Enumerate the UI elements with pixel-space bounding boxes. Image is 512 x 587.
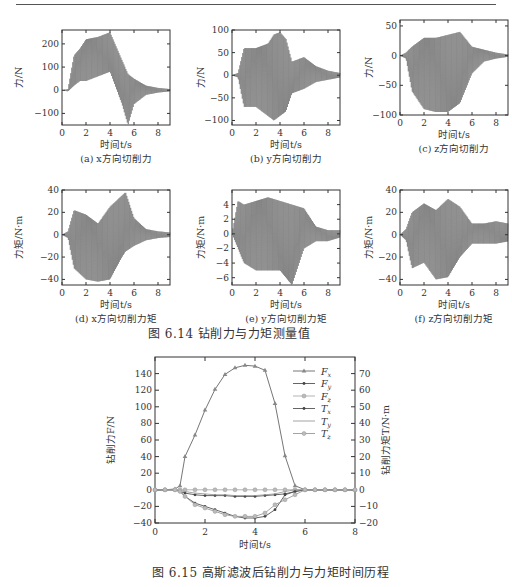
svg-text:50: 50: [386, 21, 398, 31]
svg-text:140: 140: [135, 369, 152, 379]
svg-text:0: 0: [59, 128, 65, 138]
svg-text:力/N: 力/N: [195, 67, 206, 89]
svg-text:4: 4: [445, 118, 451, 128]
svg-text:Tx: Tx: [321, 403, 331, 416]
svg-text:Fy: Fy: [320, 378, 332, 391]
legend-item-Ty: Ty: [293, 416, 331, 429]
svg-text:力矩/N·m: 力矩/N·m: [13, 216, 24, 260]
svg-text:6: 6: [469, 288, 475, 298]
svg-text:0: 0: [229, 128, 235, 138]
panel-c: 500−50−10002468时间t/s力/N(c) z方向切削力: [338, 0, 512, 160]
svg-text:时间t/s: 时间t/s: [239, 539, 271, 550]
svg-text:20: 20: [359, 452, 371, 462]
panel-a: 2001000−10002468时间t/s力/N(a) x方向切削力: [0, 10, 175, 170]
svg-text:4: 4: [252, 527, 258, 537]
svg-text:−40: −40: [378, 274, 397, 284]
svg-text:8: 8: [493, 288, 499, 298]
svg-text:时间t/s: 时间t/s: [270, 299, 302, 310]
svg-text:钻削力矩T/N·m: 钻削力矩T/N·m: [380, 405, 391, 475]
svg-text:6: 6: [302, 527, 308, 537]
svg-text:2: 2: [202, 527, 208, 537]
svg-text:30: 30: [359, 435, 371, 445]
svg-text:力/N: 力/N: [363, 57, 374, 79]
svg-text:80: 80: [141, 418, 153, 428]
legend-item-Tx: Tx: [293, 403, 331, 416]
svg-text:0: 0: [229, 288, 235, 298]
svg-text:100: 100: [212, 25, 229, 35]
svg-text:−4: −4: [216, 258, 230, 268]
panel-caption: (e) y方向切削力矩: [245, 313, 326, 324]
panel-d: 40200−20−4002468时间t/s力矩/N·m(d) x方向切削力矩: [0, 170, 175, 330]
svg-text:0: 0: [223, 70, 229, 80]
svg-text:2: 2: [421, 118, 427, 128]
svg-text:8: 8: [493, 118, 499, 128]
svg-text:20: 20: [48, 207, 60, 217]
svg-text:0: 0: [359, 485, 365, 495]
legend-item-Fx: Fx: [293, 366, 332, 379]
svg-text:时间t/s: 时间t/s: [100, 299, 132, 310]
svg-text:2: 2: [421, 288, 427, 298]
svg-text:70: 70: [359, 369, 371, 379]
panel-e: 420−2−4−602468时间t/s力矩/N·m(e) y方向切削力矩: [170, 170, 345, 330]
svg-text:8: 8: [352, 527, 358, 537]
svg-text:力矩/N·m: 力矩/N·m: [363, 216, 374, 260]
svg-text:−6: −6: [216, 273, 230, 283]
panel-caption: (a) x方向切削力: [80, 153, 151, 164]
svg-text:Fx: Fx: [320, 366, 332, 379]
svg-text:40: 40: [359, 418, 371, 428]
svg-text:0: 0: [53, 230, 59, 240]
svg-text:力/N: 力/N: [13, 67, 24, 89]
svg-text:20: 20: [141, 468, 153, 478]
svg-text:−2: −2: [216, 243, 229, 253]
svg-text:100: 100: [135, 402, 152, 412]
panel-caption: (f) z方向切削力矩: [415, 313, 494, 324]
svg-text:8: 8: [155, 288, 161, 298]
svg-text:50: 50: [359, 402, 371, 412]
svg-text:40: 40: [386, 185, 398, 195]
svg-text:2: 2: [253, 128, 259, 138]
svg-text:6: 6: [131, 128, 137, 138]
svg-text:0: 0: [223, 229, 229, 239]
svg-text:0: 0: [391, 230, 397, 240]
svg-text:0: 0: [391, 51, 397, 61]
figure-6-15-chart: −40−20020406080100120140−20−100102030405…: [100, 350, 430, 560]
svg-text:时间t/s: 时间t/s: [270, 139, 302, 150]
svg-text:2: 2: [253, 288, 259, 298]
legend-item-Fz: Fz: [293, 391, 332, 404]
svg-text:钻削力F/N: 钻削力F/N: [105, 416, 116, 464]
svg-text:6: 6: [131, 288, 137, 298]
svg-text:4: 4: [107, 128, 113, 138]
svg-text:60: 60: [359, 385, 371, 395]
svg-text:6: 6: [469, 118, 475, 128]
svg-text:10: 10: [359, 468, 371, 478]
svg-text:−100: −100: [204, 115, 229, 125]
svg-text:2: 2: [223, 214, 229, 224]
panel-caption: (c) z方向切削力: [419, 143, 490, 154]
svg-text:40: 40: [141, 452, 153, 462]
svg-text:−20: −20: [133, 501, 152, 511]
svg-text:2: 2: [83, 288, 89, 298]
svg-text:200: 200: [42, 39, 59, 49]
svg-text:0: 0: [59, 288, 65, 298]
svg-text:8: 8: [325, 128, 331, 138]
svg-text:0: 0: [152, 527, 158, 537]
svg-text:−20: −20: [40, 252, 59, 262]
svg-text:8: 8: [155, 128, 161, 138]
svg-text:2: 2: [83, 128, 89, 138]
svg-text:120: 120: [135, 385, 152, 395]
svg-text:力矩/N·m: 力矩/N·m: [195, 216, 206, 260]
panel-caption: (b) y方向切削力: [250, 153, 322, 164]
svg-text:6: 6: [301, 288, 307, 298]
svg-text:8: 8: [325, 288, 331, 298]
panel-caption: (d) x方向切削力矩: [75, 313, 157, 324]
svg-text:−40: −40: [133, 518, 152, 528]
svg-text:0: 0: [397, 118, 403, 128]
svg-text:Fz: Fz: [320, 391, 332, 404]
panel-f: 40200−20−4002468时间t/s力矩/N·m(f) z方向切削力矩: [338, 170, 512, 330]
svg-text:100: 100: [42, 62, 59, 72]
svg-text:时间t/s: 时间t/s: [438, 299, 470, 310]
svg-text:50: 50: [218, 48, 230, 58]
svg-text:−100: −100: [34, 108, 59, 118]
svg-text:0: 0: [397, 288, 403, 298]
svg-text:4: 4: [107, 288, 113, 298]
